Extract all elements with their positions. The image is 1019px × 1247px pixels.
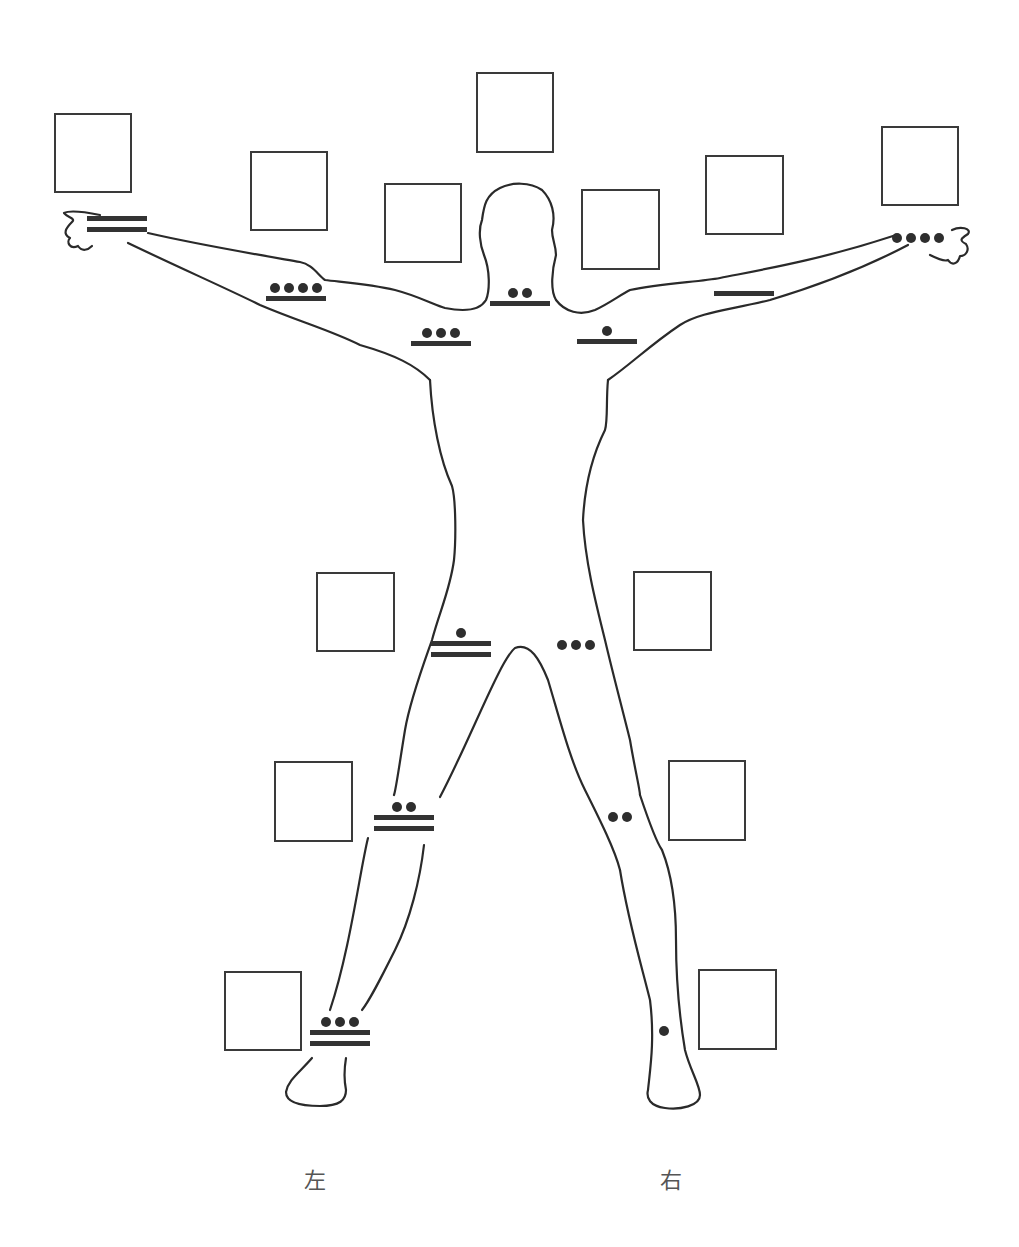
answer-box-left-knee[interactable] — [275, 762, 352, 841]
numeral-dot — [422, 328, 432, 338]
numeral-right-ankle — [659, 1026, 669, 1036]
numeral-dot — [298, 283, 308, 293]
numeral-dot — [436, 328, 446, 338]
numeral-dot — [284, 283, 294, 293]
body-diagram — [0, 0, 1019, 1247]
numeral-dot — [602, 326, 612, 336]
numeral-dot — [270, 283, 280, 293]
answer-box-right-shoulder[interactable] — [582, 190, 659, 269]
numeral-left-elbow — [266, 283, 326, 301]
numeral-right-shoulder — [577, 326, 637, 344]
answer-box-head[interactable] — [477, 73, 553, 152]
right-leg-outer — [640, 795, 700, 1108]
numeral-dot — [557, 640, 567, 650]
numeral-dot — [406, 802, 416, 812]
numeral-dot — [659, 1026, 669, 1036]
answer-box-left-elbow[interactable] — [251, 152, 327, 230]
numeral-left-knee — [374, 802, 434, 831]
numeral-dot — [892, 233, 902, 243]
numeral-right-hand — [892, 233, 944, 243]
numeral-left-shoulder — [411, 328, 471, 346]
numeral-dot — [622, 812, 632, 822]
label-left: 左 — [304, 1162, 326, 1194]
answer-box-right-ankle[interactable] — [699, 970, 776, 1049]
numeral-bar — [431, 641, 491, 646]
left-arm-underside — [128, 243, 430, 380]
numeral-bar — [411, 341, 471, 346]
numeral-bar — [310, 1041, 370, 1046]
numeral-dot — [456, 628, 466, 638]
numeral-dot — [608, 812, 618, 822]
torso-left — [394, 380, 455, 795]
answer-box-right-knee[interactable] — [669, 761, 745, 840]
answer-boxes — [55, 73, 958, 1050]
numeral-dot — [585, 640, 595, 650]
answer-box-left-hand[interactable] — [55, 114, 131, 192]
numeral-dot — [392, 802, 402, 812]
crotch — [440, 647, 620, 870]
label-right: 右 — [660, 1162, 682, 1194]
numeral-bar — [374, 826, 434, 831]
numeral-right-hip — [557, 640, 595, 650]
left-leg-inner — [362, 845, 424, 1010]
numeral-right-knee — [608, 812, 632, 822]
numeral-bar — [87, 216, 147, 221]
maya-numerals — [87, 216, 944, 1046]
numeral-dot — [571, 640, 581, 650]
numeral-left-ankle — [310, 1017, 370, 1046]
answer-box-right-hip[interactable] — [634, 572, 711, 650]
numeral-bar — [266, 296, 326, 301]
torso-right — [583, 380, 640, 795]
left-leg-outer — [330, 838, 368, 1010]
numeral-bar — [310, 1030, 370, 1035]
numeral-dot — [335, 1017, 345, 1027]
numeral-bar — [490, 301, 550, 306]
numeral-dot — [450, 328, 460, 338]
numeral-dot — [349, 1017, 359, 1027]
right-leg-inner — [620, 870, 652, 1090]
numeral-bar — [714, 291, 774, 296]
answer-box-left-hip[interactable] — [317, 573, 394, 651]
numeral-bar — [577, 339, 637, 344]
numeral-bar — [87, 227, 147, 232]
answer-box-right-hand[interactable] — [882, 127, 958, 205]
numeral-left-hand — [87, 216, 147, 232]
answer-box-right-elbow[interactable] — [706, 156, 783, 234]
numeral-right-elbow — [714, 291, 774, 296]
numeral-dot — [522, 288, 532, 298]
numeral-dot — [508, 288, 518, 298]
numeral-dot — [934, 233, 944, 243]
numeral-dot — [920, 233, 930, 243]
numeral-bar — [431, 652, 491, 657]
numeral-left-hip — [431, 628, 491, 657]
numeral-dot — [321, 1017, 331, 1027]
answer-box-left-shoulder[interactable] — [385, 184, 461, 262]
right-hand-outline — [930, 228, 969, 264]
numeral-bar — [374, 815, 434, 820]
body-outline — [64, 184, 969, 1109]
numeral-neck — [490, 288, 550, 306]
numeral-dot — [312, 283, 322, 293]
numeral-dot — [906, 233, 916, 243]
answer-box-left-ankle[interactable] — [225, 972, 301, 1050]
left-foot — [286, 1058, 346, 1106]
